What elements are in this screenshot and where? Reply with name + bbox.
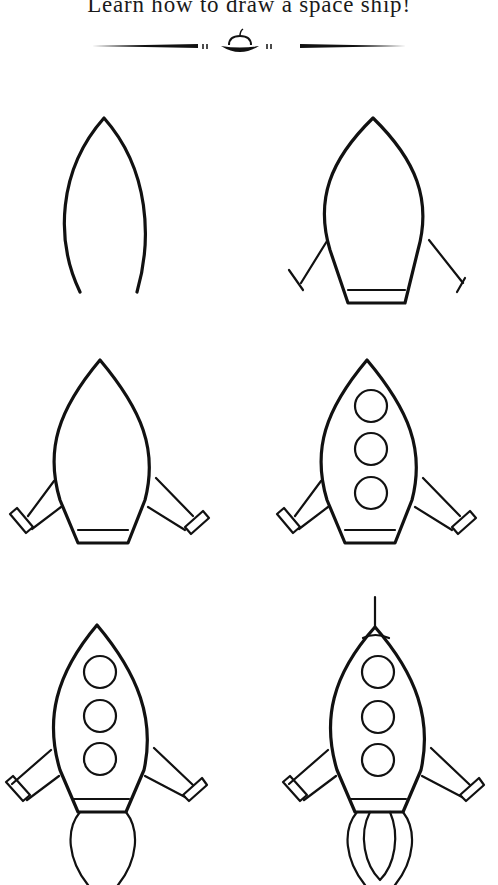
- step-1-drawing: [64, 118, 145, 292]
- step-6-drawing: [283, 597, 484, 885]
- step-2-drawing: [289, 118, 465, 303]
- drawing-canvas: [0, 0, 498, 885]
- step-3-drawing: [10, 360, 209, 543]
- step-5-drawing: [6, 625, 207, 885]
- ufo-ornament-icon: [92, 29, 406, 52]
- step-4-drawing: [277, 360, 476, 543]
